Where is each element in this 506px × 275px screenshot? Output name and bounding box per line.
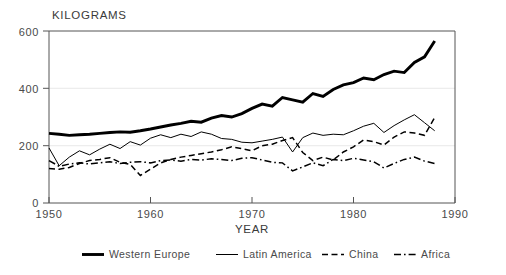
y-axis-title: KILOGRAMS — [52, 9, 127, 21]
x-tick-label-1970: 1970 — [239, 208, 266, 220]
line-chart: 0 200 400 600 1950 1960 1970 1980 1990 K… — [0, 0, 506, 275]
x-tick-label-1950: 1950 — [36, 208, 63, 220]
legend-label-latin-america: Latin America — [243, 248, 312, 260]
x-tick-label-1960: 1960 — [137, 208, 164, 220]
chart-figure: 0 200 400 600 1950 1960 1970 1980 1990 K… — [0, 0, 506, 275]
y-tick-label-600: 600 — [19, 26, 39, 38]
y-tick-label-200: 200 — [19, 140, 39, 152]
legend-label-africa: Africa — [421, 248, 450, 260]
chart-legend: Western EuropeLatin AmericaChinaAfrica — [82, 248, 450, 260]
legend-label-china: China — [349, 248, 378, 260]
y-tick-label-400: 400 — [19, 83, 39, 95]
legend-label-western-europe: Western Europe — [109, 248, 190, 260]
x-axis-title: YEAR — [235, 223, 269, 235]
y-axis-ticks — [43, 31, 49, 203]
plot-area-background — [49, 31, 455, 203]
x-tick-label-1990: 1990 — [442, 208, 469, 220]
x-tick-label-1980: 1980 — [340, 208, 367, 220]
